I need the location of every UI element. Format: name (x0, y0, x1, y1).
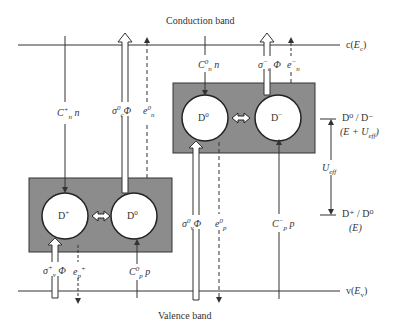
valence-edge-label: v(Ev) (346, 286, 367, 299)
d-zero-label-right: D0 (198, 112, 209, 123)
valence-band-title: Valence band (158, 310, 212, 321)
d-minus-label: D− (271, 112, 282, 123)
sigma-v0-label: σ0vΦ (182, 218, 201, 232)
en0-label: e0n (143, 105, 154, 119)
upper-level-energy: (E + Ueff) (340, 127, 379, 140)
cn-plus-label: C+n n (57, 107, 79, 121)
d-plus-label: D+ (58, 210, 69, 221)
sigma-v-plus-label: σ+v Φ (43, 265, 66, 279)
ep-plus-label: ep+ (73, 266, 86, 280)
ep0-label: e0p (215, 218, 226, 232)
cp0-label: C0p p (129, 266, 150, 280)
d-zero-label-left: D0 (127, 210, 138, 221)
cn0-label: C0n n (198, 59, 219, 73)
conduction-edge-label: c(Ec) (346, 40, 366, 53)
lower-level-energy: (E) (349, 223, 362, 233)
upper-level-label: D⁰ / D⁻ (342, 113, 374, 123)
sigma-c-minus-label: σ−c Φ (258, 59, 281, 73)
conduction-band-title: Conduction band (166, 15, 235, 26)
cp-minus-label: C−p p (272, 218, 294, 232)
left-defect-box (29, 178, 172, 252)
ueff-label: Ueff (322, 163, 336, 176)
sigma-c0-label: σ0cΦ (112, 105, 131, 119)
en-minus-label: e−n (287, 59, 300, 73)
lower-level-label: D⁺ / D⁰ (342, 209, 374, 219)
